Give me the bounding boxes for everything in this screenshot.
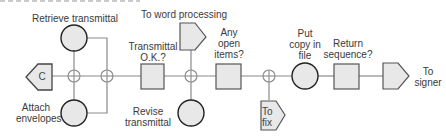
return-sequence-label: Return sequence?: [323, 38, 373, 60]
attach-envelopes-circle: [61, 100, 87, 126]
attach-envelopes-label: Attach envelopes: [16, 102, 56, 124]
connector-c-label: C: [38, 71, 45, 82]
junction-1: [68, 70, 80, 82]
retrieve-transmittal-circle: [61, 25, 87, 51]
connector-c-shape: C: [26, 64, 52, 90]
to-word-processing-shape: [180, 23, 206, 50]
revise-transmittal-label: Revise transmittal: [120, 106, 176, 128]
put-copy-in-file-circle: [292, 63, 318, 89]
put-copy-in-file-label: Put copy in file: [285, 28, 325, 61]
to-signer-label: To signer: [412, 66, 444, 88]
revise-transmittal-circle: [178, 100, 204, 126]
any-open-items-square: [216, 64, 241, 89]
flowchart-canvas: C Retrieve transmittal Attach envelopes …: [0, 0, 446, 138]
any-open-items-label: Any open items?: [212, 27, 246, 60]
junction-2: [101, 70, 113, 82]
junction-4: [263, 70, 275, 82]
to-fix-label: To fix: [262, 106, 280, 128]
transmittal-ok-square: [141, 64, 164, 89]
to-signer-shape: [383, 63, 409, 89]
return-sequence-square: [334, 64, 359, 89]
retrieve-transmittal-label: Retrieve transmittal: [30, 13, 120, 24]
junction-3: [185, 70, 197, 82]
to-word-processing-label: To word processing: [124, 9, 244, 20]
transmittal-ok-label: Transmittal O.K.?: [126, 41, 180, 63]
